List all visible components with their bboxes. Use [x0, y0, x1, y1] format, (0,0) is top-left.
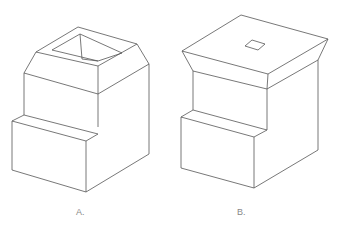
edge-line: [24, 115, 98, 134]
edge-line: [254, 130, 267, 137]
edge-line: [98, 64, 149, 94]
edge-line: [36, 27, 78, 52]
edge-line: [52, 34, 80, 50]
edge-line: [98, 53, 122, 61]
edge-line: [252, 40, 265, 44]
figure-b-block: [181, 15, 328, 188]
edge-line: [12, 170, 86, 192]
edge-line: [182, 51, 193, 71]
edge-line: [245, 40, 252, 46]
edge-line: [12, 115, 24, 121]
edge-line: [181, 168, 254, 188]
edge-line: [24, 52, 36, 73]
edge-line: [98, 44, 137, 66]
edge-line: [267, 74, 268, 89]
edge-line: [80, 34, 122, 53]
edge-line: [182, 51, 268, 74]
figure-a-label: A.: [76, 207, 85, 217]
edge-line: [80, 34, 82, 59]
edge-line: [86, 134, 98, 141]
figure-b-label: B.: [237, 207, 246, 217]
edge-line: [193, 110, 267, 130]
edge-line: [267, 60, 318, 89]
edge-line: [86, 154, 149, 192]
edge-line: [268, 39, 328, 74]
isometric-drawing-canvas: [0, 0, 345, 228]
edge-line: [181, 117, 254, 137]
figure-a-block: [12, 27, 149, 192]
edge-line: [182, 15, 241, 51]
edge-line: [245, 46, 258, 50]
edge-line: [24, 73, 98, 94]
edge-line: [241, 15, 328, 39]
edge-line: [137, 44, 149, 64]
edge-line: [193, 71, 267, 89]
edge-line: [52, 50, 98, 61]
edge-line: [12, 121, 86, 141]
edge-line: [78, 27, 137, 44]
edge-line: [254, 150, 318, 188]
edge-line: [258, 44, 265, 50]
edge-line: [181, 110, 193, 117]
